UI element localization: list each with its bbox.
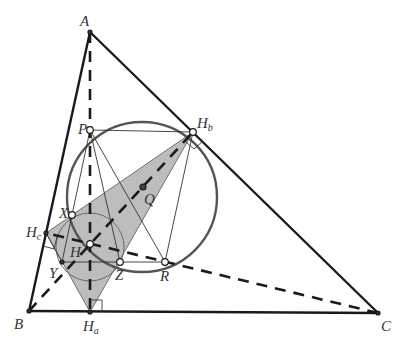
point-Q	[140, 184, 146, 190]
point-X	[69, 212, 76, 219]
point-Ha	[88, 310, 92, 314]
label-B: B	[14, 316, 23, 332]
point-A	[88, 30, 92, 34]
label-X: X	[58, 205, 69, 221]
label-Hb-sub: b	[208, 122, 213, 133]
point-Y	[60, 260, 64, 264]
diagram-canvas: A B C P Q X Y Z R H Ha Hb Hc	[0, 0, 407, 353]
label-R: R	[159, 268, 169, 284]
point-C	[376, 311, 380, 315]
orthic-triangle-shade	[46, 132, 193, 312]
label-Z: Z	[115, 267, 124, 283]
label-Ha-sub: a	[94, 325, 99, 336]
point-B	[27, 309, 31, 313]
label-H: H	[69, 244, 82, 260]
label-Hb: Hb	[196, 115, 213, 133]
label-C: C	[381, 318, 392, 334]
label-Hc-sub: c	[37, 231, 42, 242]
geometry-figure: A B C P Q X Y Z R H Ha Hb Hc	[0, 0, 407, 353]
side-BC	[29, 311, 378, 313]
point-R	[162, 259, 169, 266]
label-A: A	[79, 13, 90, 29]
label-Ha: Ha	[82, 318, 99, 336]
point-Z	[117, 259, 124, 266]
label-Hc: Hc	[25, 224, 42, 242]
point-P	[87, 127, 94, 134]
point-Hc	[44, 231, 48, 235]
label-P: P	[77, 121, 87, 137]
label-Q: Q	[144, 191, 155, 207]
point-Hb	[190, 129, 197, 136]
point-H	[87, 241, 94, 248]
